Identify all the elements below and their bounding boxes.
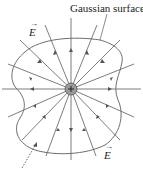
title-leader-line (100, 14, 107, 40)
field-vector-label-top: →E (29, 26, 36, 38)
field-vector-label-bottom: →E (104, 149, 111, 161)
gaussian-surface-label: Gaussian surface (70, 2, 143, 14)
gaussian-surface-diagram (0, 0, 143, 175)
gaussian-surface-curve (12, 38, 122, 154)
